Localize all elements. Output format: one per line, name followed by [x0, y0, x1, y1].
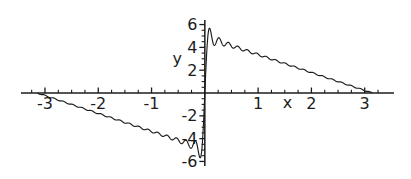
x-axis-label: x [283, 93, 292, 112]
fourier-series-plot-figure: -3-2-1123-6-4-2246xy [0, 0, 411, 179]
x-tick-label: -2 [90, 94, 106, 113]
y-tick-label: -2 [181, 106, 197, 125]
y-tick-label: 4 [187, 38, 197, 57]
x-tick-label: 1 [253, 94, 263, 113]
y-tick-label: 2 [187, 61, 197, 80]
plot-canvas: -3-2-1123-6-4-2246xy [0, 0, 411, 179]
x-tick-label: 3 [360, 94, 370, 113]
y-tick-label: -6 [181, 152, 197, 171]
x-tick-label: -1 [144, 94, 160, 113]
x-tick-label: 2 [306, 94, 316, 113]
y-tick-label: 6 [187, 15, 197, 34]
x-tick-label: -3 [37, 94, 53, 113]
y-axis-label: y [172, 49, 181, 68]
